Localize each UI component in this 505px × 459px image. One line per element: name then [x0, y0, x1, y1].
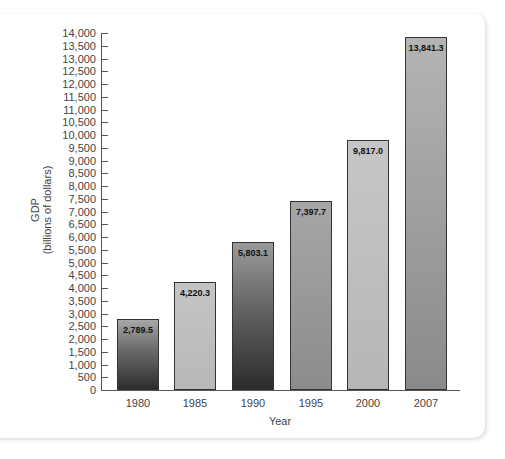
x-axis-title: Year	[250, 415, 310, 427]
y-tick-label: 10,000	[62, 129, 96, 141]
y-tick-mark	[101, 237, 108, 238]
y-tick-label: 5,000	[68, 257, 96, 269]
y-tick-mark	[101, 365, 108, 366]
y-tick-label: 12,000	[62, 78, 96, 90]
y-tick-mark	[101, 84, 108, 85]
y-axis-title-line-2: (billions of dollars)	[41, 166, 53, 255]
x-axis-line	[101, 390, 460, 391]
y-tick-mark	[101, 301, 108, 302]
y-tick-mark	[101, 199, 108, 200]
x-tick-label: 2007	[396, 397, 456, 409]
y-tick-mark	[101, 122, 108, 123]
y-tick-mark	[101, 314, 108, 315]
y-tick-mark	[101, 250, 108, 251]
y-tick-mark	[101, 263, 108, 264]
bar-1980: 2,789.5	[117, 319, 159, 390]
y-tick-label: 2,500	[68, 320, 96, 332]
y-tick-label: 1,000	[68, 359, 96, 371]
y-tick-label: 10,500	[62, 116, 96, 128]
y-axis-title-line-1: GDP	[29, 166, 41, 255]
y-tick-mark	[101, 148, 108, 149]
x-tick-label: 1990	[223, 397, 283, 409]
y-tick-label: 0	[90, 384, 96, 396]
y-tick-mark	[101, 59, 108, 60]
y-tick-label: 9,500	[68, 142, 96, 154]
bar-value-label: 2,789.5	[118, 325, 158, 335]
y-tick-mark	[101, 135, 108, 136]
y-tick-label: 3,500	[68, 295, 96, 307]
y-tick-label: 12,500	[62, 65, 96, 77]
y-tick-mark	[101, 161, 108, 162]
y-tick-label: 5,500	[68, 244, 96, 256]
y-tick-label: 4,500	[68, 269, 96, 281]
bar-1990: 5,803.1	[232, 242, 274, 390]
y-tick-mark	[101, 275, 108, 276]
bar-2007: 13,841.3	[405, 37, 447, 390]
y-tick-label: 14,000	[62, 27, 96, 39]
y-tick-label: 2,000	[68, 333, 96, 345]
x-tick-label: 1995	[281, 397, 341, 409]
y-tick-label: 11,500	[63, 91, 96, 103]
y-tick-mark	[101, 173, 108, 174]
gdp-bar-chart: GDP (billions of dollars) 05001,0001,500…	[0, 0, 505, 459]
y-tick-mark	[101, 46, 108, 47]
bar-value-label: 4,220.3	[175, 288, 215, 298]
bar-1995: 7,397.7	[290, 201, 332, 390]
y-tick-label: 500	[78, 371, 96, 383]
y-tick-mark	[101, 288, 108, 289]
y-tick-mark	[101, 326, 108, 327]
x-tick-label: 1985	[165, 397, 225, 409]
y-tick-mark	[101, 339, 108, 340]
y-tick-mark	[101, 352, 108, 353]
y-tick-mark	[101, 186, 108, 187]
y-tick-label: 13,000	[62, 53, 96, 65]
y-tick-label: 7,500	[68, 193, 96, 205]
y-tick-label: 13,500	[62, 40, 96, 52]
bar-2000: 9,817.0	[347, 140, 389, 390]
y-tick-mark	[101, 33, 108, 34]
y-tick-label: 7,000	[68, 206, 96, 218]
y-tick-mark	[101, 97, 108, 98]
y-tick-mark	[101, 224, 108, 225]
bar-value-label: 13,841.3	[406, 43, 446, 53]
y-tick-mark	[101, 71, 108, 72]
y-tick-mark	[101, 377, 108, 378]
y-tick-label: 8,500	[68, 167, 96, 179]
y-tick-label: 3,000	[68, 308, 96, 320]
bar-value-label: 9,817.0	[348, 146, 388, 156]
y-tick-label: 9,000	[68, 155, 96, 167]
y-tick-label: 1,500	[68, 346, 96, 358]
y-tick-label: 11,000	[63, 104, 96, 116]
y-tick-mark	[101, 110, 108, 111]
y-tick-label: 6,000	[68, 231, 96, 243]
bar-value-label: 7,397.7	[291, 207, 331, 217]
x-tick-label: 2000	[338, 397, 398, 409]
y-tick-label: 4,000	[68, 282, 96, 294]
bar-value-label: 5,803.1	[233, 248, 273, 258]
bar-1985: 4,220.3	[174, 282, 216, 390]
y-tick-label: 8,000	[68, 180, 96, 192]
y-tick-label: 6,500	[68, 218, 96, 230]
y-tick-mark	[101, 212, 108, 213]
x-tick-label: 1980	[108, 397, 168, 409]
y-axis-title: GDP (billions of dollars)	[29, 166, 53, 255]
